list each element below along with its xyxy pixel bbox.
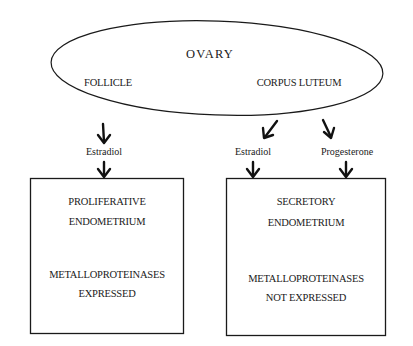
arrow-estradiol-to-secretory [247, 162, 259, 177]
metalloproteinases-label-right: METALLOPROTEINASES [226, 273, 386, 284]
expressed-label: EXPRESSED [30, 288, 184, 299]
arrow-corpus-luteum-to-progesterone [323, 120, 334, 138]
proliferative-label: PROLIFERATIVE [30, 196, 184, 207]
secretory-label: SECRETORY [226, 196, 386, 207]
arrow-follicle-to-estradiol [98, 124, 110, 143]
arrow-progesterone-to-secretory [340, 162, 352, 177]
endometrium-label-left: ENDOMETRIUM [30, 216, 184, 227]
progesterone-label: Progesterone [312, 146, 382, 157]
corpus-luteum-label: CORPUS LUTEUM [250, 77, 348, 88]
metalloproteinases-label-left: METALLOPROTEINASES [30, 269, 184, 280]
ovary-ellipse [49, 15, 384, 121]
estradiol-label-right: Estradiol [228, 146, 278, 157]
follicle-label: FOLLICLE [80, 77, 136, 88]
ovary-title: OVARY [185, 47, 235, 62]
not-expressed-label: NOT EXPRESSED [226, 292, 386, 303]
arrow-estradiol-to-proliferative [98, 162, 110, 177]
estradiol-label-left: Estradiol [79, 146, 129, 157]
arrow-corpus-luteum-to-estradiol [263, 121, 277, 138]
endometrium-label-right: ENDOMETRIUM [226, 217, 386, 228]
